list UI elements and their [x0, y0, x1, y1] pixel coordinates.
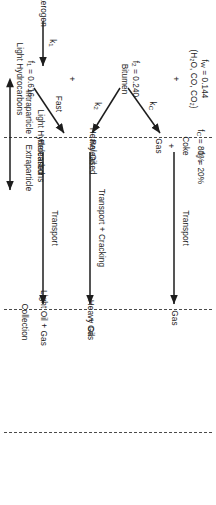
label-k1: k1	[47, 39, 57, 47]
reaction-scheme-canvas: k1 --> Light Hydrocarbons (horizontal in…	[0, 0, 216, 505]
label-product-light-oil: Light Oil + Gas	[38, 290, 47, 346]
label-kerogen: Kerogen	[38, 0, 47, 27]
zone-label-extraparticle: Extraparticle	[23, 145, 32, 192]
f2-value: = 0.240	[131, 67, 140, 98]
label-gas-intermediate: Gas	[153, 138, 162, 153]
label-kc: kC	[147, 102, 157, 111]
label-product-gas: Gas	[169, 310, 178, 325]
kc-subscript: C	[148, 106, 155, 111]
plus-sign-upper: +	[171, 76, 181, 81]
label-water-gases: (H₂O, CO, CO₂)	[188, 49, 197, 108]
label-fg-split: fg = 20%	[195, 152, 205, 184]
k2-subscript: 2	[93, 106, 100, 110]
label-k2: k2	[92, 102, 102, 110]
label-f2-fraction: f2 = 0.240	[130, 61, 140, 98]
zone-label-intraparticle: Intraparticle	[23, 90, 32, 134]
label-bitumen: Bitumen	[119, 64, 128, 95]
label-transport-light-oil: Transport	[49, 210, 58, 246]
label-fw-fraction: fW = 0.144	[199, 60, 209, 99]
label-product-heavy-oil-line2: + Gas	[85, 318, 94, 341]
label-light-hc-released-line2: Released	[35, 139, 44, 174]
label-transport-cracking: Transport + Cracking	[96, 189, 105, 267]
plus-sign-coke-gas: +	[166, 143, 176, 148]
label-light-hydrocarbons: Light Hydrocarbons	[14, 43, 23, 116]
label-fast: Fast	[53, 96, 62, 112]
label-transport-gas: Transport	[180, 210, 189, 246]
label-heavy-oil-released-line2: Released	[87, 139, 96, 174]
fw-value: = 0.144	[200, 68, 209, 99]
arrow-bitumen-to-heavy-oil	[92, 88, 120, 133]
zone-label-collection: Collection	[19, 304, 28, 341]
diagram-rotation-frame: k1 --> Light Hydrocarbons (horizontal in…	[0, 0, 216, 505]
k1-subscript: 1	[48, 43, 55, 47]
fg-value: = 20%	[196, 158, 205, 184]
plus-sign-lower: +	[67, 76, 77, 81]
label-coke: Coke	[180, 136, 189, 156]
